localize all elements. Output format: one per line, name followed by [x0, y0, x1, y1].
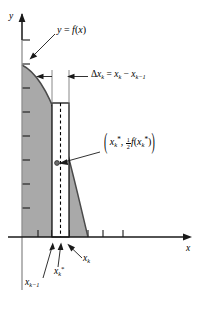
x-k-minus-1-label: xk−1 [25, 278, 39, 288]
x-k-label: xk [83, 254, 90, 264]
pair-open-paren: ( [104, 131, 107, 154]
curve-equation-label: y = f(x) [57, 25, 86, 35]
curve-label-leader [30, 34, 56, 60]
x-axis-arrowhead [183, 234, 192, 241]
delta-x-arrow [36, 74, 88, 80]
x-k-minus-1-sub: k−1 [29, 281, 39, 288]
midpoint-dot [55, 161, 60, 166]
x-axis-label: x [186, 244, 190, 254]
x-k-star-label: xk* [54, 266, 64, 277]
figure-canvas [0, 0, 198, 311]
delta-x-label: Δxk = xk − xk−1 [91, 70, 146, 80]
x-k-sub: k [87, 257, 90, 264]
x-k-leader [67, 244, 82, 258]
x-k-star-leader [58, 243, 64, 268]
y-axis-label: y [9, 12, 13, 22]
delta-x-guides [52, 70, 69, 105]
riemann-sum-figure: y x y = f(x) Δxk = xk − xk−1 ( xk*, 12f(… [0, 0, 198, 311]
delta-rhs-sub-k-minus-1: k−1 [136, 73, 146, 80]
midpoint-coordinate-label: ( xk*, 12f(xk*)) [104, 137, 155, 150]
x-k-star-superscript: * [61, 265, 64, 272]
pair-close-paren: ) [151, 131, 154, 154]
